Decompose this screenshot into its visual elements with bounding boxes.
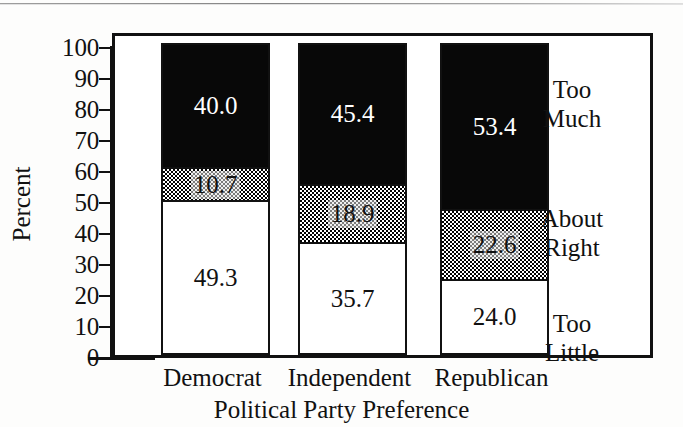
y-tick-label: 70	[43, 128, 99, 153]
y-tick-20: 20	[0, 283, 99, 308]
y-tick-label: 20	[43, 283, 99, 308]
y-tick-label: 60	[43, 159, 99, 184]
y-tick-label: 10	[43, 314, 99, 339]
legend-label-line1: About	[507, 204, 637, 233]
bar-segment-value: 35.7	[328, 285, 378, 313]
x-label-republican: Republican	[402, 364, 582, 392]
plot-area: 40.010.749.345.418.935.753.422.624.0 Too…	[112, 33, 653, 358]
y-tick-mark	[99, 264, 112, 266]
y-tick-label: 40	[43, 221, 99, 246]
bar-segment-too-much[interactable]: 45.4	[298, 43, 407, 186]
bar-segment-value: 53.4	[470, 113, 520, 141]
legend-label-line2: Little	[507, 338, 637, 367]
bar-segment-value: 22.6	[470, 231, 520, 259]
legend-label-line1: Too	[507, 75, 637, 104]
bar-segment-too-much[interactable]: 40.0	[161, 43, 270, 169]
scan-artifact-line-secondary	[0, 4, 683, 5]
bar-segment-value: 45.4	[328, 100, 378, 128]
legend-item-too-much: TooMuch	[507, 75, 637, 133]
legend-item-about-right: AboutRight	[507, 204, 637, 262]
bar-segment-too-little[interactable]: 49.3	[161, 200, 270, 355]
x-axis-title: Political Party Preference	[0, 396, 683, 424]
bar-segment-about-right[interactable]: 10.7	[161, 167, 270, 202]
y-tick-label: 30	[43, 252, 99, 277]
legend-label-line2: Right	[507, 233, 637, 262]
y-axis-title: Percent	[8, 144, 36, 264]
bar-segment-about-right[interactable]: 18.9	[298, 184, 407, 245]
y-tick-100: 100	[0, 35, 99, 60]
bar-segment-value: 18.9	[328, 200, 378, 228]
y-tick-mark	[99, 202, 112, 204]
y-tick-label: 80	[43, 97, 99, 122]
y-tick-mark	[99, 357, 112, 359]
legend-label-line1: Too	[507, 309, 637, 338]
y-tick-label: 0	[43, 345, 99, 370]
y-tick-label: 100	[43, 35, 99, 60]
bar-segment-value: 24.0	[470, 303, 520, 331]
bar-independent[interactable]: 45.418.935.7	[298, 45, 407, 355]
y-tick-mark	[99, 326, 112, 328]
y-tick-mark	[99, 295, 112, 297]
y-tick-10: 10	[0, 314, 99, 339]
y-tick-mark	[99, 171, 112, 173]
bar-democrat[interactable]: 40.010.749.3	[161, 45, 270, 355]
y-tick-90: 90	[0, 66, 99, 91]
chart-page: 0102030405060708090100 Percent 40.010.74…	[0, 0, 683, 427]
bar-segment-value: 10.7	[191, 171, 241, 199]
y-tick-mark	[99, 78, 112, 80]
bar-segment-too-little[interactable]: 35.7	[298, 242, 407, 355]
y-tick-mark	[99, 233, 112, 235]
legend-item-too-little: TooLittle	[507, 309, 637, 367]
y-tick-mark	[99, 109, 112, 111]
y-tick-mark	[99, 140, 112, 142]
y-tick-mark	[99, 47, 112, 49]
bar-segment-value: 49.3	[191, 264, 241, 292]
y-tick-80: 80	[0, 97, 99, 122]
bar-segment-value: 40.0	[191, 92, 241, 120]
legend-label-line2: Much	[507, 104, 637, 133]
y-tick-0: 0	[0, 345, 99, 370]
y-tick-label: 90	[43, 66, 99, 91]
y-tick-label: 50	[43, 190, 99, 215]
